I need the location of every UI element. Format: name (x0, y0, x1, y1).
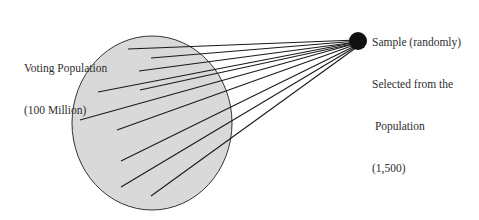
sampling-diagram: Voting Population (100 Million) Sample (… (0, 0, 479, 220)
population-label-line: (100 Million) (24, 103, 107, 117)
sample-label-line: Selected from the (372, 77, 461, 91)
sample-label-line: Sample (randomly) (372, 35, 461, 49)
population-label: Voting Population (100 Million) (24, 33, 107, 145)
sample-label: Sample (randomly) Selected from the Popu… (372, 7, 461, 203)
sample-dot (349, 32, 367, 50)
population-label-line: Voting Population (24, 61, 107, 75)
sample-label-line: Population (372, 119, 461, 133)
sample-label-line: (1,500) (372, 161, 461, 175)
